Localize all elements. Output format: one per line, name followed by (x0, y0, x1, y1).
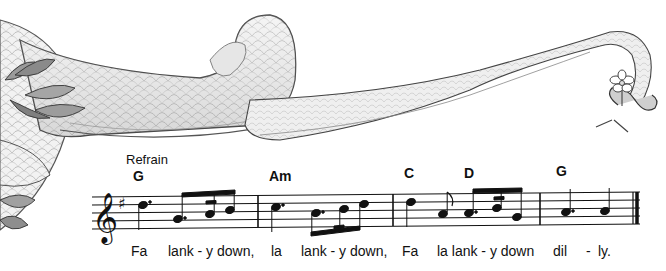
chord-label: C (404, 165, 414, 181)
staff-lines (92, 192, 640, 229)
treble-clef-icon: 𝄞 (92, 191, 118, 245)
music-staff: 𝄞 ♯ (0, 0, 666, 271)
chord-label: D (464, 165, 474, 181)
lyric-syllable: la lank - y down (437, 243, 534, 259)
chord-label: Am (269, 168, 292, 184)
lyric-syllable: Fa (402, 243, 418, 259)
lyric-syllable: lank - y down, (168, 243, 254, 259)
lyric-syllable: dil (553, 243, 567, 259)
lyric-syllable: la (271, 243, 282, 259)
sharp-icon: ♯ (118, 194, 126, 213)
lyric-syllable: - (586, 243, 591, 259)
lyric-syllable: Fa (131, 243, 147, 259)
lyric-syllable: lank - y down, (301, 243, 387, 259)
lyric-syllable: ly. (598, 243, 611, 259)
chord-label: G (133, 168, 144, 184)
chord-label: G (556, 163, 567, 179)
section-label: Refrain (126, 152, 168, 167)
